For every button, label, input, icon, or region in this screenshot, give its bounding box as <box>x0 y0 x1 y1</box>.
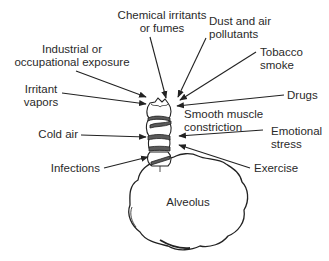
label-dust-pollutants: Dust and air pollutants <box>209 15 271 41</box>
label-alveolus: Alveolus <box>160 196 216 209</box>
arrow-irritant-vapors <box>62 93 146 104</box>
label-exercise: Exercise <box>254 162 298 175</box>
arrow-tobacco <box>180 52 256 100</box>
label-industrial-exposure: Industrial or occupational exposure <box>8 43 136 69</box>
label-drugs: Drugs <box>287 89 318 102</box>
label-emotional-stress: Emotional stress <box>271 125 322 151</box>
label-smooth-muscle-constriction: Smooth muscle constriction <box>184 108 263 134</box>
arrow-drugs <box>177 95 284 106</box>
label-irritant-vapors: Irritant vapors <box>20 83 62 109</box>
arrow-industrial <box>76 71 146 97</box>
label-chemical-irritants: Chemical irritants or fumes <box>106 9 218 35</box>
label-cold-air: Cold air <box>20 128 78 141</box>
arrow-dust <box>178 38 206 97</box>
arrow-chemical <box>150 37 166 98</box>
arrow-cold-air <box>81 135 146 137</box>
arrow-infections <box>104 157 148 168</box>
label-infections: Infections <box>30 162 100 175</box>
label-tobacco-smoke: Tobacco smoke <box>260 46 303 72</box>
